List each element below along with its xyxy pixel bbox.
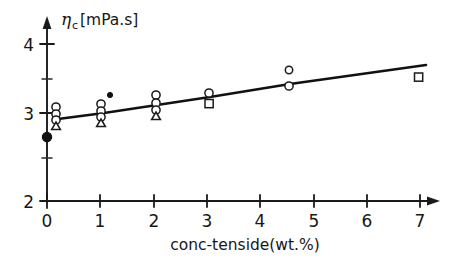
x-axis-group — [47, 194, 440, 208]
y-axis-label-symbol: η — [61, 9, 72, 29]
y-axis-label: η c [mPa.s] — [61, 9, 138, 32]
figure-container: 4 3 2 0 1 2 3 4 5 6 7 η c [mPa.s] conc-t… — [0, 0, 451, 261]
y-tick-label-3: 3 — [23, 104, 34, 124]
x-tick-label-1: 1 — [95, 211, 106, 231]
data-point-small-dot — [107, 92, 112, 97]
x-tick-labels: 0 1 2 3 4 5 6 7 — [42, 211, 426, 231]
y-axis-arrow-icon — [43, 16, 52, 29]
x-axis-label: conc-tenside(wt.%) — [170, 236, 320, 254]
y-axis-label-unit: [mPa.s] — [80, 11, 138, 29]
x-tick-label-3: 3 — [202, 211, 213, 231]
x-tick-label-4: 4 — [255, 211, 266, 231]
data-point-circle — [205, 89, 213, 97]
scatter-plot: 4 3 2 0 1 2 3 4 5 6 7 η c [mPa.s] conc-t… — [0, 0, 451, 261]
x-axis-arrow-icon — [427, 197, 440, 206]
data-point-circle — [285, 82, 293, 90]
x-tick-label-7: 7 — [415, 211, 426, 231]
data-point-circle — [152, 91, 160, 99]
data-point-circle — [285, 66, 292, 73]
data-point-square — [415, 73, 423, 81]
x-tick-label-5: 5 — [309, 211, 320, 231]
data-point-square — [205, 100, 213, 108]
trend-line — [58, 65, 426, 119]
x-tick-label-2: 2 — [149, 211, 160, 231]
y-axis-label-subscript: c — [72, 19, 78, 32]
y-tick-labels: 4 3 2 — [23, 35, 34, 212]
data-markers-group — [42, 66, 422, 141]
x-tick-label-6: 6 — [362, 211, 373, 231]
y-tick-label-4: 4 — [23, 35, 34, 55]
data-point-filled-circle — [42, 132, 51, 141]
x-tick-label-0: 0 — [42, 211, 53, 231]
y-tick-label-2: 2 — [23, 192, 34, 212]
